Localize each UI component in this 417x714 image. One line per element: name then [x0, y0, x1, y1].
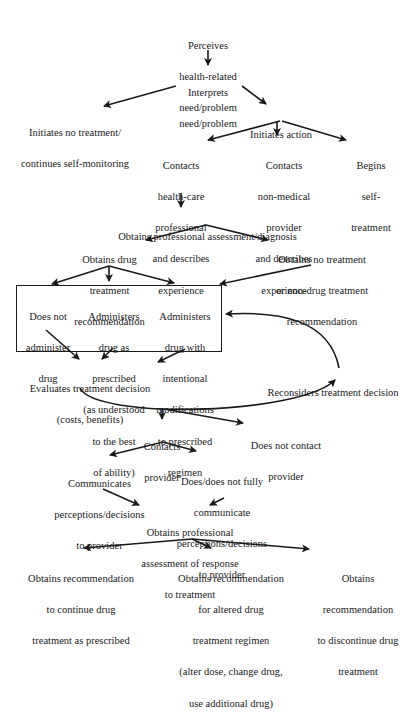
node-line: recommendation — [262, 317, 382, 327]
node-line: administer — [18, 343, 78, 353]
node-line: Does/does not fully — [172, 477, 272, 487]
node-no-drug-recommendation: Obtains no treatment or non-drug treatme… — [262, 234, 382, 338]
node-discontinue: Obtains recommendation to discontinue dr… — [308, 553, 408, 688]
node-line: Obtains recommendation — [170, 574, 292, 584]
node-line: Contacts — [132, 442, 192, 452]
node-self-treatment: Begins self- treatment — [346, 140, 396, 244]
node-line: Does not — [18, 312, 78, 322]
node-line: recommendation — [308, 605, 408, 615]
node-reconsiders: Reconsiders treatment decision — [258, 367, 408, 409]
node-line: Reconsiders treatment decision — [258, 388, 408, 398]
node-line: continues self-monitoring — [10, 159, 140, 169]
node-line: Obtains no treatment — [262, 255, 382, 265]
node-line: Initiates no treatment/ — [10, 128, 140, 138]
node-line: treatment — [346, 223, 396, 233]
node-line: health-care — [136, 192, 226, 202]
node-line: treatment as prescribed — [26, 636, 136, 646]
node-line: Communicates — [47, 479, 152, 489]
node-line: Contacts — [136, 161, 226, 171]
node-line: Evaluates treatment decision — [20, 384, 160, 394]
node-line: Contacts — [239, 161, 329, 171]
node-line: modifications — [150, 405, 220, 415]
node-line: use additional drug) — [170, 699, 292, 709]
node-line: drug with — [150, 343, 220, 353]
node-line: intentional — [150, 374, 220, 384]
node-line: for altered drug — [170, 605, 292, 615]
node-line: Interprets — [158, 88, 258, 98]
node-line: (alter dose, change drug, — [170, 667, 292, 677]
node-line: Perceives — [158, 41, 258, 51]
node-line: Obtains drug — [62, 255, 157, 265]
node-line: Administers — [150, 312, 220, 322]
node-altered: Obtains recommendation for altered drug … — [170, 553, 292, 714]
node-line: Begins — [346, 161, 396, 171]
node-line: drug as — [78, 343, 150, 353]
node-line: Initiates action — [236, 130, 326, 140]
node-line: non-medical — [239, 192, 329, 202]
node-line: Does not contact — [246, 441, 326, 451]
node-line: self- — [346, 192, 396, 202]
node-line: to discontinue drug — [308, 636, 408, 646]
node-line: treatment — [308, 667, 408, 677]
node-line: treatment regimen — [170, 636, 292, 646]
node-line: Administers — [78, 312, 150, 322]
node-line: Obtains — [308, 574, 408, 584]
node-continue: Obtains recommendation to continue drug … — [26, 553, 136, 657]
node-line: or non-drug treatment — [262, 286, 382, 296]
node-line: Obtains recommendation — [26, 574, 136, 584]
node-no-treatment: Initiates no treatment/ continues self-m… — [10, 107, 140, 180]
node-line: to continue drug — [26, 605, 136, 615]
node-line: Obtains professional — [135, 528, 245, 538]
